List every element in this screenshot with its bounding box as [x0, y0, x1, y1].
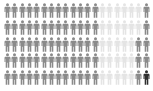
person-icon [114, 70, 121, 85]
person-icon [41, 3, 48, 18]
person-icon [26, 53, 33, 68]
person-icon [62, 53, 69, 68]
person-icon [11, 3, 18, 18]
person-icon [62, 70, 69, 85]
person-icon [135, 37, 142, 52]
person-icon [121, 20, 128, 35]
person-icon [48, 70, 55, 85]
person-icon [55, 20, 62, 35]
person-icon [11, 20, 18, 35]
person-icon [143, 70, 150, 85]
person-icon [33, 53, 40, 68]
person-icon [84, 20, 91, 35]
person-icon [143, 37, 150, 52]
person-icon [106, 20, 113, 35]
person-icon [128, 70, 135, 85]
person-icon [128, 3, 135, 18]
person-icon [19, 53, 26, 68]
person-icon [70, 70, 77, 85]
person-icon [84, 37, 91, 52]
person-icon [48, 20, 55, 35]
person-icon [99, 20, 106, 35]
person-icon [4, 70, 11, 85]
person-icon [55, 70, 62, 85]
person-icon [26, 20, 33, 35]
person-icon [55, 37, 62, 52]
person-icon [77, 20, 84, 35]
person-icon [41, 20, 48, 35]
person-icon [19, 70, 26, 85]
person-icon [41, 70, 48, 85]
person-icon [11, 70, 18, 85]
person-icon [11, 37, 18, 52]
person-icon [48, 53, 55, 68]
person-icon [77, 53, 84, 68]
person-icon [41, 37, 48, 52]
person-icon [33, 3, 40, 18]
person-icon [62, 20, 69, 35]
pictogram-row [4, 3, 152, 18]
person-icon [121, 53, 128, 68]
person-icon [114, 53, 121, 68]
person-icon [99, 3, 106, 18]
person-icon [114, 37, 121, 52]
person-icon [106, 53, 113, 68]
person-icon [135, 53, 142, 68]
person-icon [19, 3, 26, 18]
person-icon [92, 3, 99, 18]
person-icon [55, 3, 62, 18]
person-icon [106, 37, 113, 52]
person-icon [128, 53, 135, 68]
person-icon [55, 53, 62, 68]
person-icon [4, 37, 11, 52]
person-icon [77, 70, 84, 85]
person-icon [99, 53, 106, 68]
person-icon [26, 70, 33, 85]
person-icon [19, 37, 26, 52]
person-icon [106, 70, 113, 85]
person-icon [99, 37, 106, 52]
person-icon [19, 20, 26, 35]
person-icon [26, 37, 33, 52]
person-icon [70, 37, 77, 52]
person-icon [114, 20, 121, 35]
pictogram-row [4, 70, 152, 85]
person-icon [121, 3, 128, 18]
person-icon [70, 20, 77, 35]
person-icon [33, 70, 40, 85]
person-icon [106, 3, 113, 18]
person-icon [128, 20, 135, 35]
person-icon [70, 53, 77, 68]
person-icon [84, 3, 91, 18]
person-icon [48, 3, 55, 18]
pictogram-grid [4, 3, 152, 88]
pictogram-row [4, 20, 152, 35]
person-icon [84, 53, 91, 68]
person-icon [62, 3, 69, 18]
person-icon [4, 20, 11, 35]
person-icon [62, 37, 69, 52]
person-icon [26, 3, 33, 18]
person-icon [114, 3, 121, 18]
person-icon [121, 70, 128, 85]
person-icon [4, 53, 11, 68]
person-icon [143, 3, 150, 18]
person-icon [11, 53, 18, 68]
person-icon [77, 3, 84, 18]
person-icon [121, 37, 128, 52]
person-icon [92, 70, 99, 85]
person-icon [135, 20, 142, 35]
person-icon [92, 20, 99, 35]
person-icon [143, 53, 150, 68]
person-icon [143, 20, 150, 35]
person-icon [92, 37, 99, 52]
person-icon [33, 20, 40, 35]
person-icon [135, 70, 142, 85]
person-icon [77, 37, 84, 52]
pictogram-row [4, 37, 152, 52]
person-icon [84, 70, 91, 85]
person-icon [92, 53, 99, 68]
pictogram-row [4, 53, 152, 68]
person-icon [135, 3, 142, 18]
person-icon [41, 53, 48, 68]
